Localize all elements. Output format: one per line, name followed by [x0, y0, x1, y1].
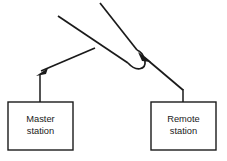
- signal-path-diagram: Master station Remote station: [0, 0, 227, 161]
- master-station-label-line1: Master: [26, 114, 54, 124]
- incoming-upper-left-ray: [58, 16, 128, 63]
- diagram-canvas: Master station Remote station: [0, 0, 227, 161]
- remote-station-label-line1: Remote: [167, 114, 200, 124]
- outgoing-ray-to-master: [41, 48, 95, 71]
- outgoing-ray-to-remote: [144, 57, 183, 90]
- incoming-top-ray: [100, 3, 137, 50]
- master-station-label-line2: station: [27, 126, 54, 136]
- remote-station-label-line2: station: [170, 126, 197, 136]
